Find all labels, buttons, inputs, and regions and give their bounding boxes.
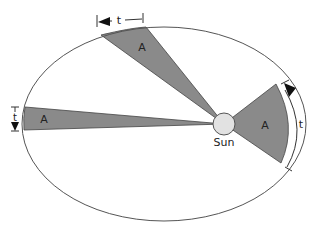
diagram-canvas: Sun A A A t t t [0, 0, 316, 233]
area-label-top: A [138, 41, 146, 54]
sun-label: Sun [214, 136, 235, 149]
kepler-diagram: Sun A A A t t t [0, 0, 316, 233]
area-label-right: A [261, 119, 269, 132]
arrow-down-icon [11, 122, 19, 131]
arrow-left-icon [98, 17, 110, 26]
time-label-left: t [13, 112, 17, 123]
time-label-top: t [117, 14, 122, 27]
area-label-left: A [40, 113, 48, 126]
sun-icon [213, 113, 235, 135]
time-label-right: t [299, 118, 304, 131]
sector-top [101, 27, 224, 124]
sector-left [24, 107, 224, 130]
